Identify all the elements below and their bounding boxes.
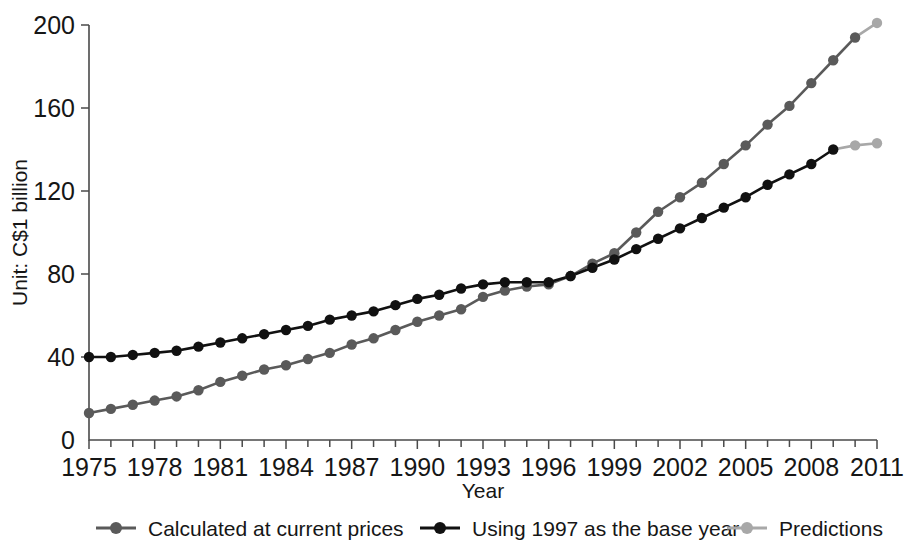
series-marker-current-prices — [762, 119, 772, 129]
series-marker-base-year — [128, 350, 138, 360]
series-marker-current-prices — [697, 178, 707, 188]
series-marker-current-prices — [434, 310, 444, 320]
series-marker-base-year — [193, 341, 203, 351]
series-marker-base-year — [762, 180, 772, 190]
y-axis-title: Unit: C$1 billion — [8, 159, 31, 306]
legend-marker-dot — [741, 522, 753, 534]
series-marker-current-prices — [149, 395, 159, 405]
y-axis-tick-label: 200 — [33, 11, 75, 39]
x-axis-tick-label: 1975 — [61, 453, 117, 481]
series-marker-base-year — [346, 310, 356, 320]
series-marker-base-year — [697, 213, 707, 223]
series-marker-current-prices — [719, 159, 729, 169]
series-marker-base-year — [368, 306, 378, 316]
x-axis-tick-label: 1987 — [324, 453, 380, 481]
x-axis-tick-label: 1984 — [258, 453, 314, 481]
series-marker-current-prices — [237, 370, 247, 380]
series-marker-base-year — [543, 277, 553, 287]
series-marker-base-year — [587, 263, 597, 273]
legend-marker-dot — [110, 522, 122, 534]
chart-axes: 0408012016020019751978198119841987199019… — [33, 11, 904, 481]
series-marker-base-year — [522, 277, 532, 287]
series-marker-base-year — [565, 271, 575, 281]
series-marker-base-year — [631, 244, 641, 254]
series-marker-base-year — [740, 192, 750, 202]
y-axis-tick-label: 40 — [47, 343, 75, 371]
legend-marker-dot — [434, 522, 446, 534]
x-axis-tick-label: 1993 — [455, 453, 511, 481]
series-marker-base-year — [784, 169, 794, 179]
axis-spine — [89, 25, 877, 440]
series-marker-current-prices — [259, 364, 269, 374]
series-marker-current-prices — [478, 292, 488, 302]
series-marker-base-year — [171, 346, 181, 356]
x-axis-tick-label: 1999 — [587, 453, 643, 481]
series-marker-predictions — [850, 140, 860, 150]
series-marker-base-year — [215, 337, 225, 347]
series-marker-current-prices — [106, 404, 116, 414]
legend-item-label: Predictions — [779, 517, 883, 540]
series-marker-base-year — [675, 223, 685, 233]
x-axis-tick-label: 2002 — [652, 453, 708, 481]
series-marker-current-prices — [368, 333, 378, 343]
series-marker-base-year — [390, 300, 400, 310]
series-line-current-prices — [89, 37, 855, 413]
series-marker-current-prices — [346, 339, 356, 349]
series-marker-base-year — [719, 202, 729, 212]
series-marker-base-year — [653, 234, 663, 244]
series-marker-current-prices — [850, 32, 860, 42]
series-marker-current-prices — [675, 192, 685, 202]
series-marker-current-prices — [740, 140, 750, 150]
series-marker-predictions — [872, 18, 882, 28]
series-marker-base-year — [412, 294, 422, 304]
series-marker-current-prices — [806, 78, 816, 88]
y-axis-tick-label: 160 — [33, 94, 75, 122]
series-marker-base-year — [259, 329, 269, 339]
series-marker-current-prices — [171, 391, 181, 401]
series-marker-base-year — [237, 333, 247, 343]
series-marker-current-prices — [325, 348, 335, 358]
x-axis-tick-label: 1978 — [127, 453, 183, 481]
series-marker-current-prices — [84, 408, 94, 418]
x-axis-tick-label: 2005 — [718, 453, 774, 481]
x-axis-title: Year — [462, 479, 504, 502]
legend-item-label: Calculated at current prices — [148, 517, 404, 540]
series-marker-base-year — [478, 279, 488, 289]
series-line-base-year — [89, 150, 833, 358]
series-marker-base-year — [456, 283, 466, 293]
series-marker-base-year — [281, 325, 291, 335]
series-marker-base-year — [806, 159, 816, 169]
y-axis-tick-label: 80 — [47, 260, 75, 288]
series-marker-base-year — [106, 352, 116, 362]
series-marker-base-year — [303, 321, 313, 331]
chart-axis-titles: Unit: C$1 billionYear — [8, 159, 504, 502]
series-marker-current-prices — [303, 354, 313, 364]
series-marker-current-prices — [193, 385, 203, 395]
series-marker-current-prices — [128, 400, 138, 410]
y-axis-tick-label: 0 — [61, 426, 75, 454]
x-axis-tick-label: 1990 — [390, 453, 446, 481]
series-marker-current-prices — [412, 317, 422, 327]
series-marker-base-year — [434, 290, 444, 300]
line-chart-figure: 0408012016020019751978198119841987199019… — [0, 0, 913, 555]
chart-series — [84, 18, 882, 418]
series-marker-base-year — [828, 144, 838, 154]
series-marker-current-prices — [828, 55, 838, 65]
series-marker-current-prices — [784, 101, 794, 111]
chart-legend: Calculated at current pricesUsing 1997 a… — [96, 517, 883, 540]
x-axis-tick-label: 1981 — [193, 453, 249, 481]
series-marker-base-year — [325, 314, 335, 324]
series-marker-current-prices — [653, 207, 663, 217]
series-marker-current-prices — [456, 304, 466, 314]
series-marker-current-prices — [215, 377, 225, 387]
series-marker-current-prices — [390, 325, 400, 335]
x-axis-tick-label: 2011 — [850, 453, 904, 481]
y-axis-tick-label: 120 — [33, 177, 75, 205]
series-marker-base-year — [84, 352, 94, 362]
series-marker-base-year — [500, 277, 510, 287]
x-axis-tick-label: 2008 — [784, 453, 840, 481]
series-marker-predictions — [872, 138, 882, 148]
series-marker-current-prices — [281, 360, 291, 370]
x-axis-tick-label: 1996 — [521, 453, 577, 481]
legend-item-label: Using 1997 as the base year — [472, 517, 739, 540]
